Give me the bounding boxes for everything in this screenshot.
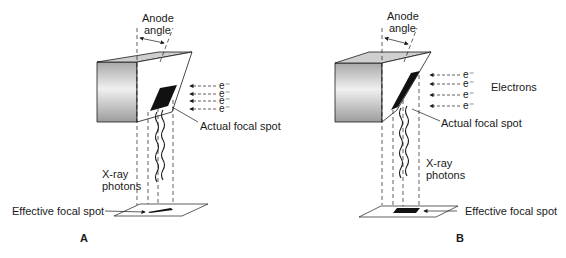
svg-text:e⁻: e⁻ [219, 103, 230, 114]
electron-beam-a: e⁻ e⁻ e⁻ e⁻ [190, 80, 230, 114]
svg-text:e⁻: e⁻ [463, 100, 474, 111]
actual-focal-spot-label-b: Actual focal spot [441, 117, 522, 129]
panel-label-a: A [80, 232, 88, 244]
effective-focal-spot-label-a: Effective focal spot [12, 205, 104, 217]
xray-photons-a [156, 110, 165, 182]
actual-focal-spot-label-a: Actual focal spot [200, 120, 281, 132]
anode-block [335, 52, 431, 122]
panel-b: Anode angle e⁻ e⁻ e⁻ e⁻ Electrons Actual… [335, 10, 557, 244]
effective-focal-spot-label-b: Effective focal spot [465, 205, 557, 217]
xray-photons-b [400, 106, 409, 178]
anode-angle-label-b1: Anode [387, 10, 419, 22]
anode-angle-arrow [385, 38, 408, 44]
anode-angle-label-a2: angle [144, 24, 171, 36]
electrons-label-b: Electrons [491, 81, 537, 93]
xray-label-a2: photons [102, 180, 142, 192]
anode-angle-label-b2: angle [389, 22, 416, 34]
electron-beam-b: e⁻ e⁻ e⁻ e⁻ [430, 69, 474, 111]
anode-angle-label-a1: Anode [142, 12, 174, 24]
xray-label-a1: X-ray [102, 168, 129, 180]
xray-label-b1: X-ray [426, 157, 453, 169]
panel-a: Anode angle e⁻ e⁻ e⁻ e⁻ Actual focal spo… [12, 12, 281, 244]
xray-focal-spot-diagram: Anode angle e⁻ e⁻ e⁻ e⁻ Actual focal spo… [0, 0, 566, 258]
svg-text:e⁻: e⁻ [463, 89, 474, 100]
svg-text:e⁻: e⁻ [463, 78, 474, 89]
panel-label-b: B [456, 232, 464, 244]
anode-angle-arrow [140, 38, 164, 43]
xray-label-b2: photons [426, 169, 466, 181]
anode-block [97, 52, 192, 122]
effective-focal-spot-b [393, 208, 420, 213]
